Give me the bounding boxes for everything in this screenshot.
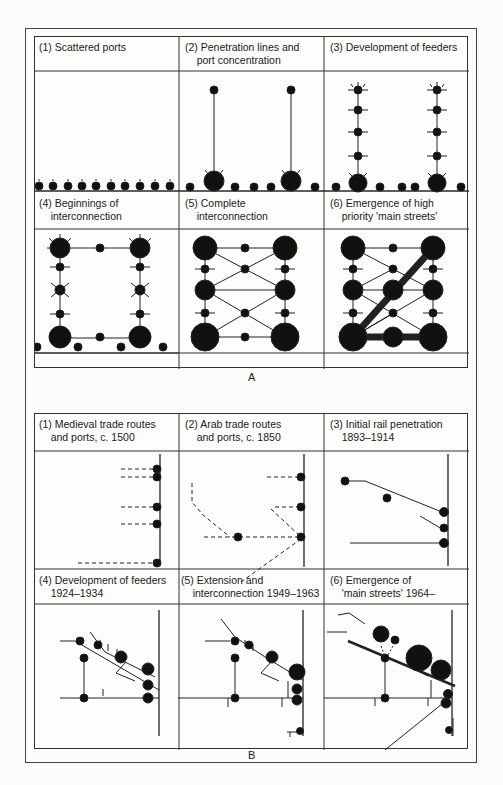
b4-feeders — [60, 610, 159, 736]
panel-a: (1) Scattered ports (2) Penetration line… — [34, 36, 468, 368]
a3-feeders — [324, 82, 469, 192]
b5-extension — [178, 610, 305, 737]
b2-arab-routes — [192, 454, 305, 582]
a-cell-6-label: (6) Emergence of high priority 'main str… — [330, 197, 437, 223]
a5-complete-interconnection — [191, 236, 299, 351]
a-cell-1-label: (1) Scattered ports — [39, 41, 126, 54]
b-cell-5-label: (5) Extension and interconnection 1949–1… — [181, 574, 319, 600]
a-cell-4-label: (4) Beginnings of interconnection — [39, 197, 122, 223]
a-cell-5-label: (5) Complete interconnection — [185, 197, 268, 223]
b3-initial-rail — [341, 454, 449, 566]
panel-a-letter: A — [248, 371, 255, 383]
b6-main-streets — [324, 610, 455, 750]
b-cell-3-label: (3) Initial rail penetration 1893–1914 — [330, 418, 443, 444]
panel-b: (1) Medieval trade routes and ports, c. … — [34, 413, 468, 749]
a-cell-3-label: (3) Development of feeders — [330, 41, 457, 54]
a4-beginnings-interconnection — [35, 234, 179, 353]
a2-penetration-lines — [179, 86, 324, 191]
a6-main-streets — [339, 236, 447, 351]
b-cell-1-label: (1) Medieval trade routes and ports, c. … — [39, 418, 156, 444]
b-cell-4-label: (4) Development of feeders 1924–1934 — [39, 574, 166, 600]
b-cell-6-label: (6) Emergence of 'main streets' 1964– — [330, 574, 435, 600]
panel-b-letter: B — [248, 749, 255, 761]
b1-medieval-routes — [78, 454, 161, 567]
b-cell-2-label: (2) Arab trade routes and ports, c. 1850 — [185, 418, 281, 444]
a-cell-2-label: (2) Penetration lines and port concentra… — [185, 41, 299, 67]
a1-scattered-ports — [35, 179, 179, 191]
